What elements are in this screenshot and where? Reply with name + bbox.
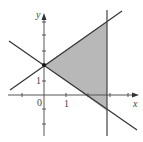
shaded-region (44, 22, 107, 111)
inequality-graph: y x 0 1 1 (0, 0, 143, 142)
x-tick-label: 1 (64, 98, 69, 109)
origin-label: 0 (37, 97, 42, 108)
y-axis-label: y (35, 9, 41, 20)
x-axis-label: x (132, 98, 138, 109)
x-axis-arrow-icon (132, 93, 139, 98)
intersection-point (42, 63, 46, 67)
y-tick-label: 1 (36, 75, 41, 86)
y-axis-arrow-icon (42, 13, 47, 20)
